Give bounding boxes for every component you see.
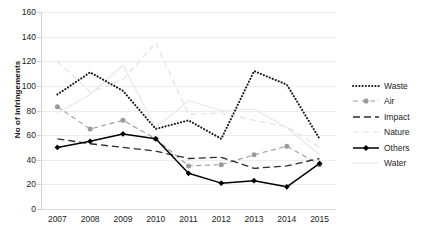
legend-swatch-others-icon: [352, 142, 380, 154]
legend-label: Impact: [380, 112, 410, 122]
y-axis-tick-label: 40: [14, 156, 36, 164]
data-point-others: [251, 178, 257, 184]
chart-figure: No of Infringements 02040608010012014016…: [0, 0, 427, 241]
legend-item-others[interactable]: Others: [352, 140, 427, 156]
series-line-air: [57, 107, 319, 166]
series-line-waste: [57, 71, 319, 139]
legend-swatch-impact-icon: [352, 111, 380, 123]
legend-swatch-air-icon: [352, 95, 380, 107]
data-point-others: [218, 180, 224, 186]
data-point-air: [186, 163, 191, 168]
legend-swatch-water-icon: [352, 157, 380, 169]
gridline: [41, 209, 336, 210]
y-axis-tick-labels: 020406080100120140160: [12, 0, 36, 241]
y-axis-tick-label: 80: [14, 107, 36, 115]
y-axis-tick-label: 100: [14, 82, 36, 90]
data-point-air: [55, 104, 60, 109]
series-line-water: [57, 65, 319, 155]
legend-item-impact[interactable]: Impact: [352, 109, 427, 125]
legend-label: Others: [380, 143, 410, 153]
y-axis-tick-label: 160: [14, 8, 36, 16]
data-point-air: [284, 144, 289, 149]
y-axis-tick-label: 60: [14, 131, 36, 139]
legend-label: Water: [380, 158, 406, 168]
y-axis-tick-label: 140: [14, 33, 36, 41]
series-line-nature: [57, 43, 319, 148]
y-axis-tick: [37, 209, 41, 210]
legend-label: Waste: [380, 81, 408, 91]
x-axis-tick-labels: 200720082009201020112012201320142015: [41, 214, 336, 230]
plot-area: [41, 12, 336, 209]
series-line-others: [57, 134, 319, 187]
legend-item-nature[interactable]: Nature: [352, 125, 427, 141]
legend-label: Air: [380, 96, 394, 106]
legend-item-waste[interactable]: Waste: [352, 78, 427, 94]
data-point-air: [88, 126, 93, 131]
data-point-others: [120, 131, 126, 137]
data-point-air: [252, 152, 257, 157]
legend-swatch-waste-icon: [352, 80, 380, 92]
y-axis-tick-label: 120: [14, 57, 36, 65]
data-point-air: [120, 118, 125, 123]
legend-item-air[interactable]: Air: [352, 94, 427, 110]
x-axis-tick-label: 2015: [300, 214, 340, 224]
legend: WasteAirImpactNatureOthersWater: [352, 78, 427, 171]
y-axis-tick-label: 0: [14, 205, 36, 213]
data-point-others: [54, 145, 60, 151]
legend-item-water[interactable]: Water: [352, 156, 427, 172]
data-point-air: [219, 162, 224, 167]
legend-swatch-nature-icon: [352, 126, 380, 138]
data-point-others: [87, 138, 93, 144]
legend-label: Nature: [380, 127, 410, 137]
series-layer: [41, 12, 336, 209]
y-axis-tick-label: 20: [14, 180, 36, 188]
